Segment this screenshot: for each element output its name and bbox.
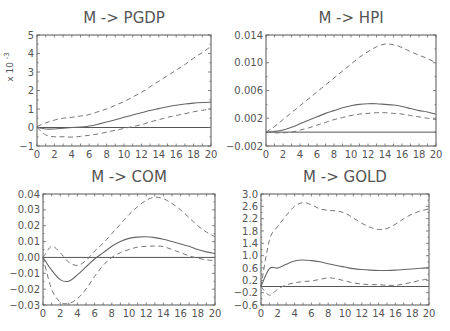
response-line <box>266 104 436 133</box>
x-tick-label: 18 <box>406 308 419 319</box>
x-tick-label: 4 <box>74 308 80 319</box>
x-tick-label: 16 <box>396 149 409 160</box>
y-tick-label: 1.4 <box>242 238 258 249</box>
figure-canvas: M -> PGDPx 10 -302468101214161820−101234… <box>0 0 450 331</box>
x-tick-label: 8 <box>109 308 115 319</box>
confidence-band-line <box>261 203 429 287</box>
y-tick-label: −0.02 <box>9 284 40 295</box>
response-line <box>261 260 429 287</box>
x-tick-label: 2 <box>275 308 281 319</box>
confidence-band-line <box>37 46 211 126</box>
y-tick-label: 0.2 <box>242 275 258 286</box>
x-tick-label: 0 <box>40 308 46 319</box>
x-tick-label: 14 <box>152 149 165 160</box>
y-tick-label: 3 <box>28 67 34 78</box>
x-tick-label: 6 <box>308 308 314 319</box>
x-tick-label: 2 <box>280 149 286 160</box>
y-tick-label: 0.03 <box>18 204 40 215</box>
x-tick-label: 0 <box>258 308 264 319</box>
y-tick-label: 0 <box>28 122 34 133</box>
x-tick-label: 8 <box>331 149 337 160</box>
x-tick-label: 12 <box>362 149 375 160</box>
y-tick-label: 1.8 <box>242 226 258 237</box>
x-tick-label: 10 <box>339 308 352 319</box>
x-tick-label: 14 <box>157 308 170 319</box>
x-tick-label: 18 <box>413 149 426 160</box>
panel-hpi: M -> HPI02468101214161820−0.0020.0020.00… <box>226 9 442 160</box>
y-tick-label: 0.02 <box>18 220 40 231</box>
x-tick-label: 18 <box>191 308 204 319</box>
y-tick-label: −0.002 <box>226 141 263 152</box>
x-tick-label: 4 <box>69 149 75 160</box>
y-tick-label: 0.002 <box>234 113 263 124</box>
x-tick-label: 6 <box>91 308 97 319</box>
y-tick-label: 1.0 <box>242 250 258 261</box>
confidence-band-line <box>266 44 436 132</box>
x-tick-label: 20 <box>209 308 222 319</box>
x-tick-label: 6 <box>314 149 320 160</box>
axis-scale-label: x 10 -3 <box>3 52 15 81</box>
y-tick-label: 0.01 <box>18 236 40 247</box>
y-tick-label: 2 <box>28 85 34 96</box>
y-tick-label: 0.014 <box>234 30 263 41</box>
y-tick-label: −0.2 <box>234 287 258 298</box>
x-tick-label: 8 <box>325 308 331 319</box>
panel-pgdp: M -> PGDPx 10 -302468101214161820−101234… <box>3 9 217 160</box>
x-tick-label: 16 <box>389 308 402 319</box>
x-tick-label: 0 <box>263 149 269 160</box>
y-tick-label: −0.01 <box>9 268 40 279</box>
y-tick-label: 5 <box>28 30 34 41</box>
confidence-band-line <box>37 109 211 137</box>
x-tick-label: 16 <box>174 308 187 319</box>
confidence-band-line <box>43 197 215 265</box>
x-tick-label: 18 <box>187 149 200 160</box>
x-tick-label: 14 <box>372 308 385 319</box>
x-tick-label: 6 <box>86 149 92 160</box>
y-tick-label: −1 <box>19 141 34 152</box>
y-tick-label: 0.010 <box>234 57 263 68</box>
x-tick-label: 16 <box>170 149 183 160</box>
y-tick-label: 3.0 <box>242 189 258 200</box>
x-tick-label: 10 <box>123 308 136 319</box>
panel-title: M -> GOLD <box>303 168 387 186</box>
y-tick-label: −0.6 <box>234 300 258 311</box>
y-tick-label: 0.006 <box>234 85 263 96</box>
panel-title: M -> COM <box>91 168 167 186</box>
plot-frame <box>261 194 429 305</box>
x-tick-label: 4 <box>297 149 303 160</box>
y-tick-label: 0.04 <box>18 189 40 200</box>
panel-com: M -> COM02468101214161820−0.03−0.02−0.01… <box>9 168 221 319</box>
confidence-band-line <box>43 246 215 304</box>
x-tick-label: 20 <box>205 149 218 160</box>
x-tick-label: 0 <box>34 149 40 160</box>
x-tick-label: 8 <box>103 149 109 160</box>
response-line <box>43 237 215 282</box>
y-tick-label: 0.00 <box>18 252 40 263</box>
x-tick-label: 4 <box>291 308 297 319</box>
panel-gold: M -> GOLD02468101214161820−0.6−0.20.20.6… <box>234 168 436 319</box>
x-tick-label: 2 <box>51 149 57 160</box>
x-tick-label: 2 <box>57 308 63 319</box>
panel-title: M -> PGDP <box>83 9 165 27</box>
panel-title: M -> HPI <box>318 9 383 27</box>
x-tick-label: 20 <box>430 149 443 160</box>
x-tick-label: 12 <box>355 308 368 319</box>
y-tick-label: 1 <box>28 104 34 115</box>
x-tick-label: 12 <box>135 149 148 160</box>
confidence-band-line <box>266 113 436 133</box>
x-tick-label: 10 <box>118 149 131 160</box>
x-tick-label: 12 <box>140 308 153 319</box>
y-tick-label: −0.03 <box>9 300 40 311</box>
y-tick-label: 0.6 <box>242 263 258 274</box>
y-tick-label: 2.6 <box>242 201 258 212</box>
x-tick-label: 14 <box>379 149 392 160</box>
impulse-response-figure: M -> PGDPx 10 -302468101214161820−101234… <box>0 0 450 331</box>
plot-frame <box>37 35 211 146</box>
y-tick-label: 4 <box>28 48 34 59</box>
x-tick-label: 20 <box>423 308 436 319</box>
plot-frame <box>266 35 436 146</box>
response-line <box>37 102 211 129</box>
y-tick-label: 2.2 <box>242 213 258 224</box>
x-tick-label: 10 <box>345 149 358 160</box>
